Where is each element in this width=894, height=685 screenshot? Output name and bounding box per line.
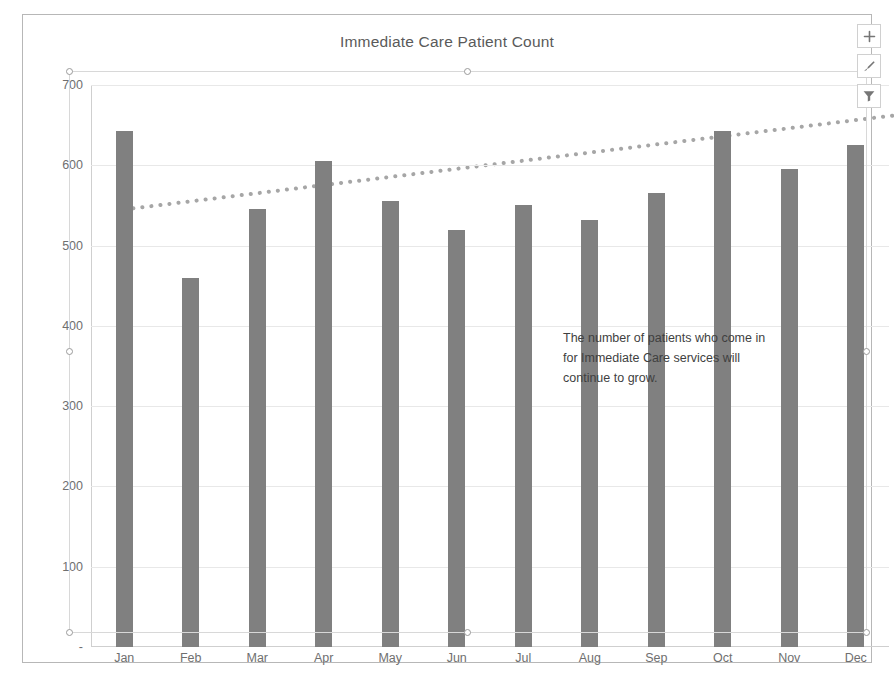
y-axis-tick-label: - <box>79 640 83 654</box>
y-axis-line <box>91 85 92 647</box>
x-axis-tick-label: Jan <box>114 651 134 665</box>
bar[interactable] <box>581 220 598 647</box>
paintbrush-icon <box>862 59 876 73</box>
gridline <box>91 567 889 568</box>
y-axis-tick-label: 600 <box>62 158 83 172</box>
bar[interactable] <box>515 205 532 647</box>
x-axis-line <box>91 646 889 647</box>
annotation-line-1: The number of patients who come in <box>563 328 803 348</box>
annotation-line-2: for Immediate Care services will <box>563 348 803 368</box>
chart-object[interactable]: Immediate Care Patient Count -1002003004… <box>22 14 872 663</box>
chart-elements-button[interactable] <box>857 24 881 48</box>
y-axis-labels[interactable]: -100200300400500600700 <box>45 85 83 647</box>
annotation-line-3: continue to grow. <box>563 368 803 388</box>
x-axis-tick-label: Jul <box>515 651 531 665</box>
gridline <box>91 85 889 86</box>
x-axis-tick-label: Sep <box>645 651 667 665</box>
chart-styles-button[interactable] <box>857 54 881 78</box>
bar[interactable] <box>714 131 731 647</box>
resize-handle-top-center[interactable] <box>464 68 471 75</box>
y-axis-tick-label: 400 <box>62 319 83 333</box>
bar[interactable] <box>249 209 266 647</box>
bar[interactable] <box>448 230 465 647</box>
gridline <box>91 165 889 166</box>
chart-filters-button[interactable] <box>857 84 881 108</box>
y-axis-tick-label: 500 <box>62 239 83 253</box>
x-axis-tick-label: Oct <box>713 651 732 665</box>
x-axis-tick-label: Dec <box>845 651 867 665</box>
x-axis-tick-label: Mar <box>246 651 268 665</box>
gridline <box>91 326 889 327</box>
y-axis-tick-label: 700 <box>62 78 83 92</box>
resize-handle-top-left[interactable] <box>66 68 73 75</box>
bar[interactable] <box>116 131 133 647</box>
bar[interactable] <box>648 193 665 647</box>
annotation-text-box[interactable]: The number of patients who come in for I… <box>563 328 803 388</box>
gridline <box>91 486 889 487</box>
x-axis-tick-label: Aug <box>579 651 601 665</box>
bar[interactable] <box>182 278 199 647</box>
gridline <box>91 246 889 247</box>
x-axis-tick-label: May <box>378 651 402 665</box>
x-axis-tick-label: Feb <box>180 651 202 665</box>
chart-title[interactable]: Immediate Care Patient Count <box>23 33 871 51</box>
x-axis-tick-label: Nov <box>778 651 800 665</box>
x-axis-labels[interactable]: JanFebMarAprMayJunJulAugSepOctNovDec <box>91 651 889 671</box>
funnel-icon <box>862 89 876 103</box>
plus-icon <box>863 30 876 43</box>
gridline <box>91 406 889 407</box>
bar[interactable] <box>847 145 864 647</box>
chart-side-buttons <box>857 24 883 114</box>
bar[interactable] <box>781 169 798 647</box>
x-axis-tick-label: Jun <box>447 651 467 665</box>
bar[interactable] <box>315 161 332 647</box>
y-axis-tick-label: 100 <box>62 560 83 574</box>
x-axis-tick-label: Apr <box>314 651 333 665</box>
y-axis-tick-label: 200 <box>62 479 83 493</box>
bar[interactable] <box>382 201 399 647</box>
y-axis-tick-label: 300 <box>62 399 83 413</box>
